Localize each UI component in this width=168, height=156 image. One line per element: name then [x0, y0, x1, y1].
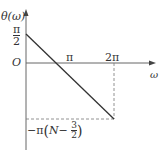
theta-line	[26, 34, 114, 119]
y-axis-label: θ(ω)	[1, 11, 25, 22]
paren-close: )	[77, 123, 82, 139]
frac-num: π	[13, 24, 20, 35]
origin-label: O	[12, 57, 21, 68]
bottom-minus: −	[59, 124, 68, 137]
bottom-prefix: −π	[27, 124, 43, 137]
y-tick-pi-half: π 2	[13, 24, 20, 47]
x-axis-arrow-icon	[149, 61, 156, 66]
x-tick-2pi: 2π	[105, 52, 119, 63]
plot-canvas	[0, 0, 168, 156]
x-tick-pi: π	[66, 52, 73, 63]
y-tick-bottom: −π(N− 3 2 )	[27, 121, 82, 140]
x-axis-label: ω	[150, 70, 158, 80]
bottom-n: N	[49, 124, 59, 137]
frac-den: 2	[13, 36, 20, 47]
